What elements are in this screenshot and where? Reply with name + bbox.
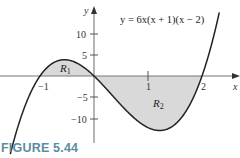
x-tick-1: 1 — [146, 81, 151, 92]
y-tick-5: 5 — [82, 50, 87, 61]
figure-caption: FIGURE 5.44 — [1, 141, 78, 155]
y-tick-10: 10 — [76, 29, 86, 40]
y-axis-arrow-icon — [91, 6, 97, 14]
equation-label: y = 6x(x + 1)(x − 2) — [120, 14, 205, 26]
x-tick-2: 2 — [201, 81, 206, 92]
area-between-curve-plot: x y 10 5 −5 −10 −1 1 2 y = 6x(x + 1)(x −… — [0, 0, 240, 158]
x-axis-arrow-icon — [232, 73, 240, 79]
y-tick-neg10: −10 — [71, 114, 87, 125]
y-tick-neg5: −5 — [77, 92, 88, 103]
x-axis-label: x — [232, 81, 238, 92]
x-tick-neg1: −1 — [38, 81, 49, 92]
y-axis-label: y — [83, 5, 89, 16]
